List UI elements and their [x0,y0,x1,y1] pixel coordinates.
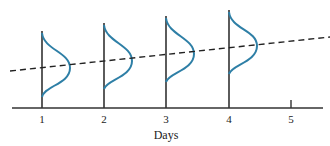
tick-label-4: 4 [226,113,232,125]
tick-label-3: 3 [163,113,169,125]
distribution-curve-4 [229,12,257,74]
distribution-curve-3 [166,18,194,82]
distribution-curve-2 [104,25,132,89]
distribution-curve-1 [42,33,70,97]
tick-label-5: 5 [288,113,294,125]
tick-label-1: 1 [39,113,45,125]
tick-label-2: 2 [101,113,107,125]
x-axis-label: Days [154,128,179,143]
trend-line [10,37,330,71]
